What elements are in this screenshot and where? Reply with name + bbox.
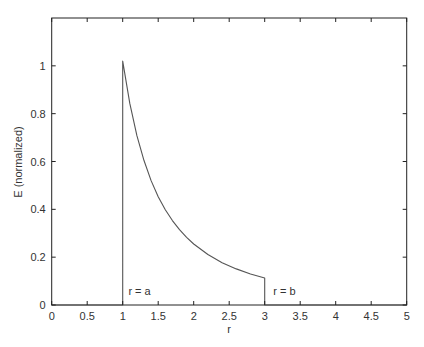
- annotation-label: r = b: [273, 285, 295, 297]
- plot-frame: [52, 18, 407, 305]
- data-series: [52, 61, 407, 305]
- y-tick-label: 0.6: [30, 156, 45, 168]
- y-tick-label: 0.4: [30, 203, 45, 215]
- x-tick-label: 1.5: [151, 310, 166, 322]
- x-tick-label: 3: [262, 310, 268, 322]
- y-tick-label: 0.2: [30, 251, 45, 263]
- x-tick-label: 4.5: [364, 310, 379, 322]
- plot-area: [52, 18, 407, 305]
- x-tick-label: 0: [49, 310, 55, 322]
- y-tick-label: 1: [40, 60, 46, 72]
- x-tick-label: 5: [404, 310, 410, 322]
- y-axis: 00.20.40.60.81: [30, 60, 406, 311]
- annotation-label: r = a: [128, 285, 151, 297]
- x-tick-label: 2.5: [222, 310, 237, 322]
- x-tick-label: 3.5: [293, 310, 308, 322]
- x-tick-label: 0.5: [80, 310, 95, 322]
- y-axis-label: E (normalized): [12, 126, 24, 198]
- y-tick-label: 0.8: [30, 108, 45, 120]
- x-tick-label: 2: [191, 310, 197, 322]
- x-tick-label: 1: [120, 310, 126, 322]
- annotations: r = ar = b: [128, 285, 295, 297]
- chart: 00.511.522.533.544.55 00.20.40.60.81 r E…: [0, 0, 424, 347]
- y-tick-label: 0: [40, 299, 46, 311]
- x-tick-label: 4: [333, 310, 339, 322]
- x-axis-label: r: [227, 323, 231, 335]
- series-line: [52, 61, 407, 305]
- x-axis: 00.511.522.533.544.55: [49, 18, 410, 322]
